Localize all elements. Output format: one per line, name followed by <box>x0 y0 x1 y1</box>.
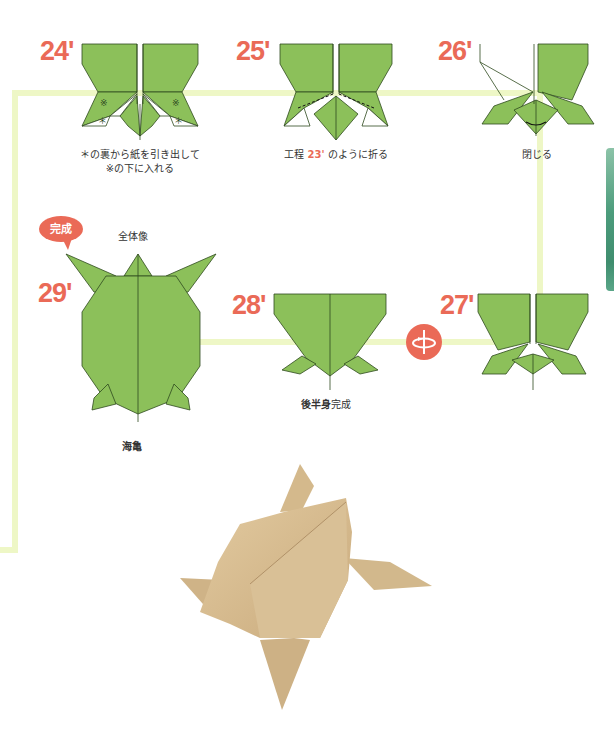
step-reference: 23' <box>308 149 325 160</box>
step-24-caption: ＊の裏から紙を引き出して ※の下に入れる <box>70 148 210 176</box>
caption-line: ＊の裏から紙を引き出して <box>70 148 210 162</box>
rotate-flip-icon <box>406 324 442 360</box>
complete-badge: 完成 <box>38 216 84 244</box>
step-number-27: 27' <box>440 292 473 319</box>
step-number-24: 24' <box>40 38 73 65</box>
caption-line: ※の下に入れる <box>70 162 210 176</box>
step-25-diagram <box>278 44 394 140</box>
step-26-diagram <box>478 44 598 140</box>
step-number-28: 28' <box>232 292 265 319</box>
step-29-caption-top: 全体像 <box>108 230 158 244</box>
step-28-caption: 後半身完成 <box>286 398 366 412</box>
mark-asterisk: ＊ <box>98 116 107 126</box>
step-26-caption: 閉じる <box>512 148 562 162</box>
step-27-diagram <box>476 294 592 390</box>
step-number-25: 25' <box>236 38 269 65</box>
step-25-caption: 工程 23' のように折る <box>276 148 396 162</box>
mark-reference: ※ <box>172 98 180 108</box>
chapter-side-tab <box>606 148 614 291</box>
step-28-diagram <box>272 294 388 390</box>
step-24-diagram: ※ ※ ＊ ＊ <box>80 44 200 140</box>
origami-turtle-photo <box>170 462 450 732</box>
caption-text: のように折る <box>324 149 387 160</box>
mark-asterisk: ＊ <box>174 116 183 126</box>
caption-bold: 後半身 <box>301 399 331 410</box>
caption-text: 工程 <box>284 149 307 160</box>
step-number-26: 26' <box>438 38 471 65</box>
mark-reference: ※ <box>100 98 108 108</box>
step-29-turtle-diagram <box>66 254 216 424</box>
badge-label: 完成 <box>38 220 84 236</box>
caption-text: 完成 <box>331 399 351 410</box>
step-29-caption-bottom: 海亀 <box>112 440 152 454</box>
